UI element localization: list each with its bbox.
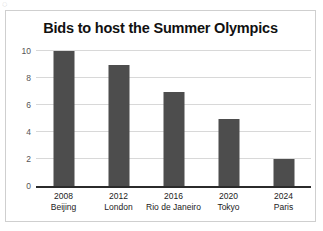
bar-slot: 2012London — [91, 51, 146, 186]
x-axis-tick-year: 2012 — [109, 191, 128, 201]
bar[interactable] — [273, 159, 294, 186]
chart-figure-frame: Bids to host the Summer Olympics 0246810… — [5, 10, 316, 222]
bar[interactable] — [163, 92, 184, 187]
y-axis-tick-label: 4 — [26, 127, 31, 137]
y-axis-tick-label: 0 — [26, 181, 31, 191]
x-axis-tick-year: 2008 — [54, 191, 73, 201]
y-axis-tick-label: 8 — [26, 73, 31, 83]
bar-slot: 2016Rio de Janeiro — [146, 51, 201, 186]
corner-artifact: ◌ — [2, 0, 11, 8]
plot-area: 0246810 2008Beijing2012London2016Rio de … — [36, 51, 311, 186]
y-axis-tick-label: 2 — [26, 154, 31, 164]
x-axis-tick-year: 2016 — [164, 191, 183, 201]
bar-slot: 2024Paris — [256, 51, 311, 186]
x-axis-tick-label: 2016Rio de Janeiro — [146, 191, 201, 212]
bar[interactable] — [218, 119, 239, 187]
x-axis-tick-city: Beijing — [51, 202, 77, 213]
x-axis-tick-label: 2024Paris — [274, 191, 293, 212]
x-axis-tick-label: 2012London — [104, 191, 132, 212]
bar[interactable] — [53, 51, 74, 186]
x-axis-line — [36, 186, 311, 188]
x-axis-tick-year: 2020 — [219, 191, 238, 201]
chart-title: Bids to host the Summer Olympics — [6, 20, 315, 36]
x-axis-tick-year: 2024 — [274, 191, 293, 201]
bar-slot: 2008Beijing — [36, 51, 91, 186]
x-axis-tick-city: London — [104, 202, 132, 213]
bars-group: 2008Beijing2012London2016Rio de Janeiro2… — [36, 51, 311, 186]
y-axis-tick-label: 10 — [22, 46, 31, 56]
bar-slot: 2020Tokyo — [201, 51, 256, 186]
x-axis-tick-city: Paris — [274, 202, 293, 213]
bar[interactable] — [108, 65, 129, 187]
x-axis-tick-label: 2020Tokyo — [217, 191, 239, 212]
x-axis-tick-city: Rio de Janeiro — [146, 202, 201, 213]
x-axis-tick-label: 2008Beijing — [51, 191, 77, 212]
x-axis-tick-city: Tokyo — [217, 202, 239, 213]
y-axis-tick-label: 6 — [26, 100, 31, 110]
